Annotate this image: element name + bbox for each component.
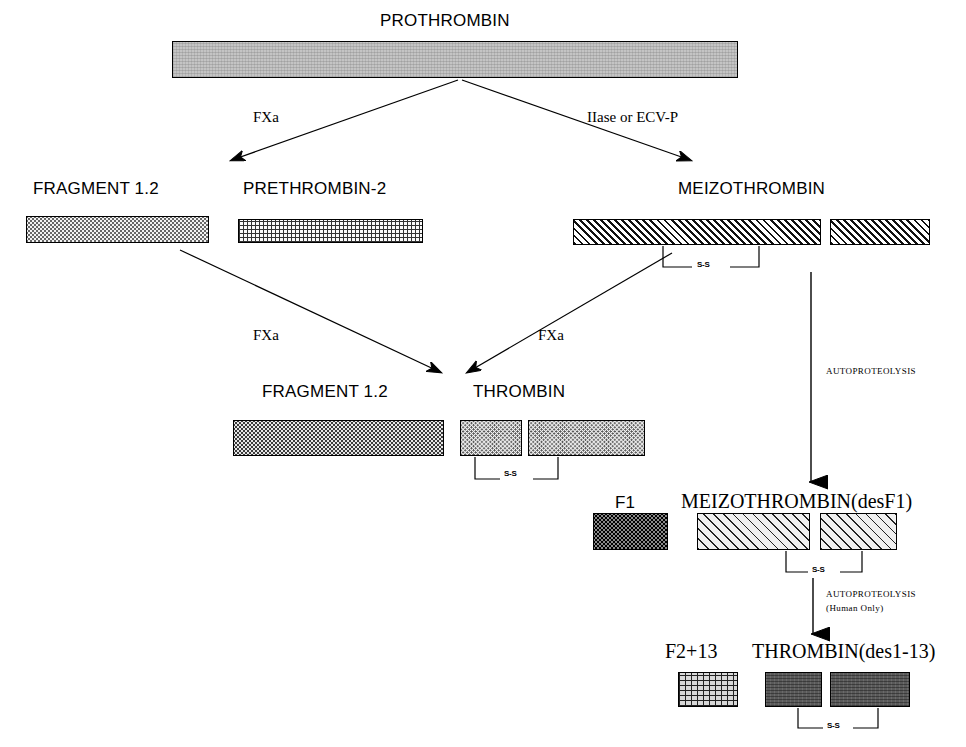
pathway-diagram: PROTHROMBIN FRAGMENT 1.2 PRETHROMBIN-2 M…: [0, 0, 966, 747]
edge-label-autoproteolysis-1: AUTOPROTEOLYSIS: [826, 367, 916, 376]
disulfide-bracket-meizothrombin-desf1-left: [786, 551, 808, 572]
node-label-thrombin: THROMBIN: [473, 383, 565, 400]
node-label-thrombin-des1-13: THROMBIN(des1-13): [752, 641, 935, 661]
disulfide-bracket-meizothrombin-left: [663, 246, 692, 267]
edge-label-fxa-mid-left: FXa: [253, 328, 279, 343]
node-bar-fragment12-top: [26, 216, 209, 243]
node-bar-meizothrombin-b: [830, 219, 930, 245]
node-label-prothrombin: PROTHROMBIN: [380, 12, 510, 29]
disulfide-bracket-thrombin-des1-13-right: [853, 708, 878, 728]
disulfide-bracket-meizothrombin-desf1-right: [840, 551, 862, 572]
node-bar-thrombin-a: [460, 420, 522, 456]
edge-label-autoproteolysis-2-note: (Human Only): [826, 604, 884, 613]
arrow-meizothrombin-to-thrombin: [468, 253, 672, 372]
disulfide-bracket-thrombin-des1-13-left: [798, 708, 823, 728]
edge-label-fxa-mid-right: FXa: [538, 328, 564, 343]
node-bar-fragment12-mid: [233, 420, 444, 456]
node-label-meizothrombin: MEIZOTHROMBIN: [678, 180, 825, 197]
node-bar-prothrombin: [172, 41, 738, 78]
edge-label-autoproteolysis-2: AUTOPROTEOLYSIS: [826, 590, 916, 599]
node-bar-meizothrombin-a: [573, 219, 821, 245]
disulfide-bracket-thrombin-right: [533, 457, 558, 479]
node-bar-thrombin-des1-13-b: [830, 672, 910, 707]
node-label-fragment12-mid: FRAGMENT 1.2: [262, 383, 388, 400]
node-bar-meizothrombin-desf1-b: [820, 513, 897, 550]
node-bar-f2-13: [678, 672, 738, 707]
disulfide-bracket-meizothrombin-right: [730, 246, 759, 267]
node-label-f2-13: F2+13: [665, 641, 717, 661]
edge-label-fxa-top-left: FXa: [253, 110, 279, 125]
node-bar-thrombin-b: [528, 420, 645, 456]
node-label-prethrombin2: PRETHROMBIN-2: [243, 180, 386, 197]
edge-label-iiase-ecvp: IIase or ECV-P: [587, 110, 678, 125]
disulfide-label-thrombin: S-S: [504, 470, 516, 478]
arrow-prethrombin2-to-thrombin: [180, 250, 440, 372]
disulfide-label-meizothrombin: S-S: [697, 261, 709, 269]
node-label-f1: F1: [615, 494, 635, 511]
disulfide-label-thrombin-des1-13: S-S: [827, 722, 839, 730]
node-bar-prethrombin2: [238, 219, 423, 243]
connector-overlay: [0, 0, 966, 747]
node-bar-thrombin-des1-13-a: [765, 672, 822, 707]
node-label-fragment12-top: FRAGMENT 1.2: [33, 180, 159, 197]
disulfide-bracket-thrombin-left: [475, 457, 500, 479]
disulfide-label-meizothrombin-desf1: S-S: [812, 566, 824, 574]
node-label-meizothrombin-desf1: MEIZOTHROMBIN(desF1): [681, 491, 912, 511]
node-bar-meizothrombin-desf1-a: [697, 513, 810, 550]
node-bar-f1: [593, 513, 668, 550]
